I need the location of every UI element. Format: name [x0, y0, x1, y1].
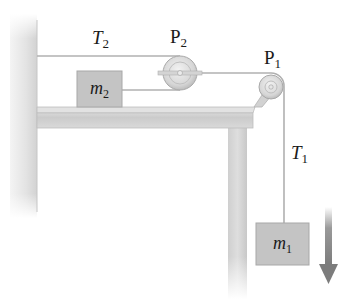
arrow-down-icon [319, 207, 338, 284]
wall [10, 14, 37, 218]
pulley-p2 [158, 56, 202, 90]
label-p1-sub: 1 [275, 56, 282, 71]
label-t1-sub: 1 [302, 151, 309, 166]
label-t1: T1 [291, 143, 308, 165]
label-t2-sub: 2 [103, 36, 110, 51]
block-m2-sub: 2 [103, 87, 109, 101]
block-m2-main: m [90, 78, 103, 98]
block-m2-label: m2 [77, 79, 122, 100]
label-t2: T2 [92, 28, 109, 50]
label-t2-main: T [92, 27, 103, 48]
table-leg [228, 128, 247, 299]
label-p2-sub: 2 [181, 35, 188, 50]
block-m1-label: m1 [256, 234, 309, 255]
block-m1-main: m [273, 233, 286, 253]
label-p1: P1 [264, 48, 281, 70]
block-m1-sub: 1 [286, 242, 292, 256]
label-t1-main: T [291, 142, 302, 163]
pulley-p1 [259, 75, 283, 99]
label-p2: P2 [170, 27, 187, 49]
table-top [37, 107, 255, 128]
label-p1-main: P [264, 47, 275, 68]
label-p2-main: P [170, 26, 181, 47]
